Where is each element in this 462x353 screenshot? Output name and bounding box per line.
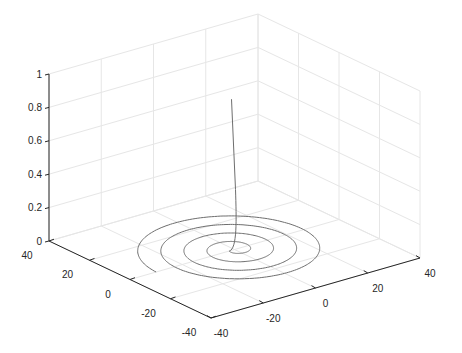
z-tick-label: 0.8 xyxy=(28,102,42,113)
z-tick-label: 0.4 xyxy=(28,169,42,180)
z-tick-label: 0.2 xyxy=(28,202,42,213)
spiral-3d-plot: 00.20.40.60.81-40-2002040-40-2002040 xyxy=(0,0,462,353)
x-tick-label: 40 xyxy=(424,268,436,279)
x-tick-label: -20 xyxy=(266,313,281,324)
y-tick-label: 20 xyxy=(62,269,74,280)
tick-labels: 00.20.40.60.81-40-2002040-40-2002040 xyxy=(21,69,436,340)
z-tick-label: 0.6 xyxy=(28,135,42,146)
z-tick-label: 0 xyxy=(36,236,42,247)
y-tick-label: -20 xyxy=(141,308,156,319)
y-tick-label: 40 xyxy=(21,250,33,261)
x-tick-label: 20 xyxy=(372,283,384,294)
x-tick-label: -40 xyxy=(214,328,229,339)
z-tick-label: 1 xyxy=(36,69,42,80)
y-tick-label: -40 xyxy=(182,327,197,338)
x-tick-label: 0 xyxy=(323,298,329,309)
y-tick-label: 0 xyxy=(105,289,111,300)
